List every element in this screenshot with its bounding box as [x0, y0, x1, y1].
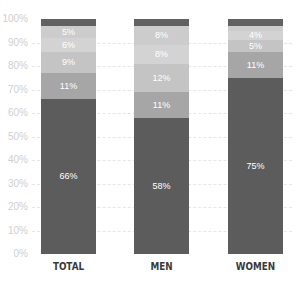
- segment-value-label: 5%: [249, 41, 262, 51]
- y-axis-tick-label: 50%: [0, 132, 28, 142]
- bar-segment: 12%: [134, 64, 189, 92]
- bar-segment: [134, 19, 189, 26]
- bar-segment: 4%: [228, 31, 283, 40]
- segment-value-label: 66%: [59, 171, 77, 181]
- y-axis-tick-label: 90%: [0, 38, 28, 48]
- x-axis-category-label: TOTAL: [47, 260, 91, 273]
- bar-segment: [228, 19, 283, 26]
- y-axis-tick-label: 40%: [0, 155, 28, 165]
- segment-value-label: 75%: [246, 161, 264, 171]
- segment-value-label: 6%: [62, 40, 75, 50]
- segment-value-label: 8%: [155, 49, 168, 59]
- segment-value-label: 9%: [62, 57, 75, 67]
- bar-segment: [41, 19, 96, 26]
- bar-segment: 9%: [41, 52, 96, 73]
- bar-segment: 66%: [41, 99, 96, 254]
- y-axis-tick-label: 30%: [0, 179, 28, 189]
- bar-segment: 58%: [134, 118, 189, 254]
- x-axis-category-label: WOMEN: [234, 260, 278, 273]
- bar-segment: 6%: [41, 38, 96, 52]
- y-axis-tick-label: 70%: [0, 85, 28, 95]
- segment-value-label: 8%: [155, 30, 168, 40]
- bar-segment: 8%: [134, 45, 189, 64]
- bar-segment: 11%: [134, 92, 189, 118]
- x-axis-category-label: MEN: [140, 260, 184, 273]
- y-axis-tick-label: 20%: [0, 202, 28, 212]
- segment-value-label: 11%: [247, 60, 264, 70]
- bar-segment: 5%: [228, 40, 283, 52]
- segment-value-label: 4%: [249, 30, 262, 40]
- segment-value-label: 11%: [60, 81, 77, 91]
- segment-value-label: 58%: [152, 181, 170, 191]
- bar-segment: 75%: [228, 78, 283, 254]
- y-axis-tick-label: 100%: [0, 14, 28, 24]
- bar-segment: 8%: [134, 26, 189, 45]
- y-axis-tick-label: 80%: [0, 61, 28, 71]
- bar-men: 58%11%12%8%8%: [134, 19, 189, 254]
- stacked-bar-chart: 0%10%20%30%40%50%60%70%80%90%100%66%11%9…: [0, 0, 295, 287]
- bar-total: 66%11%9%6%5%: [41, 19, 96, 254]
- bar-segment: [228, 26, 283, 31]
- bar-women: 75%11%5%4%: [228, 19, 283, 254]
- bar-segment: 11%: [228, 52, 283, 78]
- bar-segment: 11%: [41, 73, 96, 99]
- y-axis-tick-label: 0%: [0, 249, 28, 259]
- bar-segment: 5%: [41, 26, 96, 38]
- segment-value-label: 12%: [152, 73, 170, 83]
- segment-value-label: 11%: [153, 100, 170, 110]
- y-axis-tick-label: 60%: [0, 108, 28, 118]
- y-axis-tick-label: 10%: [0, 226, 28, 236]
- segment-value-label: 5%: [62, 27, 75, 37]
